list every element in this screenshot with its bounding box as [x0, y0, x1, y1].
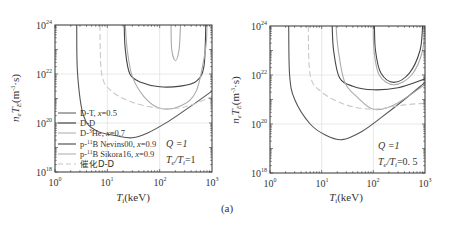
left-curves [77, 25, 212, 138]
right-chart: 1024 1022 1020 1018 100 101 102 103 Ti(k… [229, 20, 432, 205]
right-annotation-q: Q =1 [378, 140, 399, 151]
right-plot-frame [270, 26, 425, 173]
right-annotation-temp-ratio: Te/Ti=0. 5 [378, 156, 418, 169]
series-curve [289, 26, 425, 140]
right-ytick-22: 1022 [251, 69, 267, 81]
figure-caption: (a) [221, 202, 234, 215]
left-yaxis-title: neTE(m-3·s) [9, 74, 23, 122]
series-curve [374, 26, 422, 82]
legend-item-dt: D-T, x=0.5 [80, 108, 117, 118]
figure: 1024 1022 1020 1018 100 101 102 103 Ti(k… [0, 0, 454, 230]
left-annotation-q: Q =1 [166, 138, 187, 149]
legend-item-dd: D-D [80, 118, 95, 128]
left-xaxis-title: Ti(keV) [116, 191, 150, 205]
left-chart: 1024 1022 1020 1018 100 101 102 103 Ti(k… [9, 19, 219, 205]
left-xtick-3: 103 [206, 176, 219, 188]
legend-item-dhe3: D-3He, x=0.7 [80, 128, 125, 138]
right-xtick-1: 101 [316, 177, 329, 189]
right-ticks [270, 26, 425, 173]
series-curve [77, 25, 212, 138]
right-curves [289, 26, 425, 140]
left-ytick-24: 1024 [36, 19, 52, 31]
series-curve [100, 25, 212, 109]
right-xaxis-title: Ti(keV) [329, 191, 363, 205]
series-curve [171, 25, 181, 61]
right-ytick-24: 1024 [251, 20, 267, 32]
right-xtick-3: 103 [419, 177, 432, 189]
right-ytick-20: 1020 [251, 118, 267, 130]
series-curve [336, 26, 425, 110]
left-xtick-0: 100 [49, 176, 62, 188]
right-grid [270, 26, 425, 173]
legend-item-pb11-nevins: p-11B Nevins00, x=0.9 [80, 139, 156, 149]
series-curve [373, 26, 424, 85]
left-ytick-20: 1020 [36, 117, 52, 129]
series-curve [332, 26, 425, 90]
legend-item-catalyzed-dd: 催化D-D [80, 159, 115, 169]
legend-item-pb11-sikora: p-11B Sikora16, x=0.9 [80, 149, 154, 159]
left-xtick-2: 102 [154, 176, 167, 188]
left-annotation-temp-ratio: Te/Ti=1 [166, 154, 196, 167]
left-ytick-22: 1022 [36, 68, 52, 80]
right-xtick-0: 100 [264, 177, 277, 189]
left-xtick-1: 101 [101, 176, 114, 188]
series-curve [125, 25, 207, 109]
series-curve [124, 25, 206, 87]
legend: D-T, x=0.5 D-D D-3He, x=0.7 p-11B Nevins… [58, 108, 156, 169]
right-xtick-2: 102 [367, 177, 380, 189]
right-yaxis-title: neTE(m-3·s) [229, 76, 242, 124]
